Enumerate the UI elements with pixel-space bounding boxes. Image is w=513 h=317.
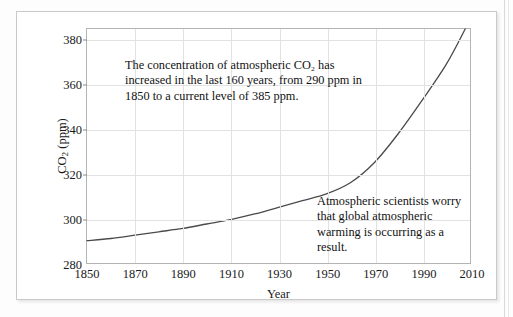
figure-page: CO2 (ppm) 185018701890191019301950197019…	[0, 0, 513, 317]
gridline-horizontal	[87, 175, 470, 176]
page-edge-divider	[504, 0, 505, 317]
x-axis-tick-label: 1950	[315, 268, 340, 281]
y-axis-tick-mark	[83, 220, 87, 221]
annotation-warming-note: Atmospheric scientists worry that global…	[317, 194, 477, 256]
x-axis-tick-label: 1990	[411, 268, 436, 281]
y-axis-tick-mark	[83, 175, 87, 176]
figure-card: CO2 (ppm) 185018701890191019301950197019…	[16, 11, 497, 300]
y-axis-tick-label: 320	[63, 169, 82, 182]
y-axis-tick-label: 300	[63, 214, 82, 227]
y-axis-tick-mark	[83, 85, 87, 86]
x-axis-tick-label: 1910	[219, 268, 244, 281]
y-axis-tick-mark	[83, 40, 87, 41]
x-axis-tick-label: 1970	[363, 268, 388, 281]
x-axis-label: Year	[86, 288, 471, 301]
y-axis-tick-label: 340	[63, 124, 82, 137]
y-axis-tick-label: 280	[63, 259, 82, 272]
co2-line-chart: CO2 (ppm) 185018701890191019301950197019…	[17, 12, 498, 301]
x-axis-tick-label: 1890	[171, 268, 196, 281]
gridline-horizontal	[87, 130, 470, 131]
gridline-horizontal	[87, 40, 470, 41]
page-edge-divider-secondary	[508, 0, 509, 317]
x-axis-tick-label: 1930	[267, 268, 292, 281]
y-axis-tick-label: 360	[63, 79, 82, 92]
x-axis-tick-label: 1870	[123, 268, 148, 281]
x-axis-tick-label: 2010	[460, 268, 485, 281]
y-axis-tick-label: 380	[63, 34, 82, 47]
annotation-concentration-note: The concentration of atmospheric CO₂ has…	[125, 58, 375, 104]
y-axis-tick-mark	[83, 130, 87, 131]
